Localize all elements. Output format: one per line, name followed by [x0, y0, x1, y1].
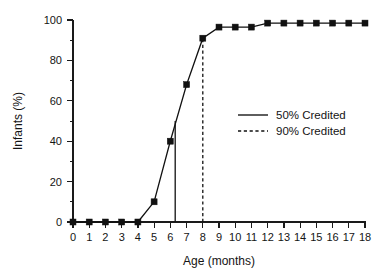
x-tick-label: 10 — [229, 231, 241, 243]
x-tick-label: 18 — [359, 231, 371, 243]
data-point-marker — [232, 24, 238, 30]
x-tick-label: 13 — [278, 231, 290, 243]
x-tick-label: 1 — [86, 231, 92, 243]
data-point-marker — [346, 20, 352, 26]
x-tick-label: 7 — [184, 231, 190, 243]
data-point-marker — [151, 199, 157, 205]
x-tick-label: 6 — [167, 231, 173, 243]
annotation-lines — [175, 38, 203, 222]
data-point-marker — [200, 35, 206, 41]
legend-label-50-credited: 50% Credited — [276, 109, 346, 121]
legend-label-90-credited: 90% Credited — [276, 125, 346, 137]
data-point-marker — [265, 20, 271, 26]
data-series-group — [70, 20, 368, 225]
x-tick-label: 0 — [70, 231, 76, 243]
x-tick-label: 12 — [262, 231, 274, 243]
y-tick-label: 80 — [50, 54, 62, 66]
chart-figure: 0 20 40 60 80 100 — [0, 0, 379, 277]
data-point-marker — [167, 138, 173, 144]
y-axis-title: Infants (%) — [11, 92, 25, 150]
axes-group — [73, 20, 366, 222]
data-point-marker — [119, 219, 125, 225]
y-tick-label: 0 — [56, 216, 62, 228]
x-axis-title: Age (months) — [183, 254, 255, 268]
x-tick-label: 16 — [326, 231, 338, 243]
x-tick-label: 4 — [135, 231, 141, 243]
x-tick-label: 5 — [151, 231, 157, 243]
x-tick-label: 9 — [216, 231, 222, 243]
data-point-marker — [281, 20, 287, 26]
x-tick-label: 14 — [294, 231, 306, 243]
data-point-marker — [362, 20, 368, 26]
y-tick-label: 20 — [50, 176, 62, 188]
y-tick-label: 40 — [50, 135, 62, 147]
data-point-marker — [135, 219, 141, 225]
x-axis-tick-labels: 0 1 2 3 4 5 6 7 8 9 10 11 12 13 14 15 16… — [70, 231, 371, 243]
data-point-marker — [216, 24, 222, 30]
y-tick-label: 100 — [44, 14, 62, 26]
data-point-marker — [248, 24, 254, 30]
data-point-marker — [297, 20, 303, 26]
x-tick-label: 17 — [343, 231, 355, 243]
x-tick-label: 8 — [200, 231, 206, 243]
y-tick-label: 60 — [50, 95, 62, 107]
data-point-marker — [184, 82, 190, 88]
line-chart: 0 20 40 60 80 100 — [0, 0, 379, 277]
y-axis-ticks — [67, 20, 73, 222]
data-point-marker — [70, 219, 76, 225]
data-point-marker — [102, 219, 108, 225]
data-point-marker — [313, 20, 319, 26]
series-polyline — [73, 23, 365, 222]
data-point-marker — [86, 219, 92, 225]
x-tick-label: 3 — [119, 231, 125, 243]
data-point-marker — [330, 20, 336, 26]
chart-legend: 50% Credited 90% Credited — [238, 109, 346, 137]
x-tick-label: 2 — [102, 231, 108, 243]
x-tick-label: 15 — [310, 231, 322, 243]
y-axis-tick-labels: 0 20 40 60 80 100 — [44, 14, 62, 228]
x-axis-ticks — [73, 222, 365, 228]
x-tick-label: 11 — [246, 231, 257, 243]
